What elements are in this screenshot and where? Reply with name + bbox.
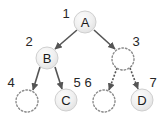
edge-empty3-to-left — [109, 68, 117, 90]
index-label-2: 2 — [25, 34, 32, 49]
edge-root-to-left — [55, 30, 77, 49]
tree-canvas: A 1 B 2 3 4 C 5 — [0, 0, 162, 123]
index-label-4: 4 — [7, 75, 14, 90]
node-group: A 1 B 2 3 4 C 5 — [7, 6, 156, 113]
node-label-d: D — [137, 93, 146, 108]
node-5-c[interactable]: C — [55, 89, 77, 111]
node-circle-empty — [93, 90, 115, 112]
index-label-5: 5 — [73, 75, 80, 90]
index-label-6: 6 — [84, 75, 91, 90]
index-label-7: 7 — [149, 75, 156, 90]
edge-b-to-left — [33, 67, 40, 90]
edge-root-to-right — [94, 30, 115, 49]
node-4-empty[interactable] — [16, 90, 38, 112]
node-label-b: B — [43, 51, 52, 66]
node-circle-empty — [16, 90, 38, 112]
edge-b-to-right — [55, 67, 62, 89]
index-label-3: 3 — [132, 34, 139, 49]
node-label-c: C — [61, 93, 70, 108]
node-label-a: A — [81, 15, 90, 30]
node-7-d[interactable]: D — [131, 89, 153, 111]
node-1-a[interactable]: A — [74, 11, 96, 33]
binary-tree-diagram: A 1 B 2 3 4 C 5 — [0, 0, 162, 123]
edge-empty3-to-right — [130, 68, 138, 89]
index-label-1: 1 — [62, 6, 69, 21]
node-6-empty[interactable] — [93, 90, 115, 112]
node-circle-empty — [112, 48, 134, 70]
node-2-b[interactable]: B — [36, 47, 58, 69]
node-3-empty[interactable] — [112, 48, 134, 70]
